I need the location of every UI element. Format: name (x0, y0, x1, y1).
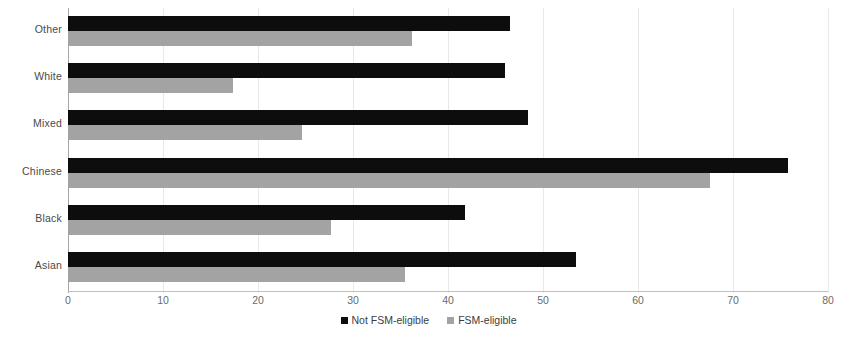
legend-swatch-fsm-eligible (447, 317, 454, 324)
x-axis-tick-60: 60 (632, 294, 644, 306)
legend-label-text: FSM-eligible (458, 314, 516, 326)
y-axis-label-black: Black (2, 212, 62, 224)
x-axis-line (68, 291, 828, 292)
gridline-80 (828, 8, 829, 293)
plot-area (68, 8, 828, 291)
x-axis-tick-20: 20 (252, 294, 264, 306)
bar-group-white (68, 59, 828, 103)
bar-other-not-fsm-eligible[interactable] (68, 16, 510, 31)
y-axis-label-mixed: Mixed (2, 117, 62, 129)
bar-group-mixed (68, 106, 828, 150)
x-axis-tick-10: 10 (157, 294, 169, 306)
bar-group-other (68, 12, 828, 56)
x-axis-tick-50: 50 (537, 294, 549, 306)
bar-group-black (68, 201, 828, 245)
y-axis-label-white: White (2, 70, 62, 82)
y-axis-label-chinese: Chinese (2, 165, 62, 177)
bar-chart: OtherWhiteMixedChineseBlackAsian 0102030… (0, 0, 857, 341)
legend-item-not-fsm-eligible[interactable]: Not FSM-eligible (341, 314, 430, 326)
x-axis-tick-labels: 01020304050607080 (68, 294, 828, 310)
bar-white-not-fsm-eligible[interactable] (68, 63, 505, 78)
chart-legend: Not FSM-eligibleFSM-eligible (0, 314, 857, 326)
y-axis-label-asian: Asian (2, 259, 62, 271)
bar-chinese-fsm-eligible[interactable] (68, 173, 710, 188)
bar-group-chinese (68, 154, 828, 198)
x-axis-tick-30: 30 (347, 294, 359, 306)
bar-asian-not-fsm-eligible[interactable] (68, 252, 576, 267)
bar-white-fsm-eligible[interactable] (68, 78, 233, 93)
x-axis-tick-80: 80 (822, 294, 834, 306)
y-axis-category-labels: OtherWhiteMixedChineseBlackAsian (0, 8, 62, 291)
legend-swatch-not-fsm-eligible (341, 317, 348, 324)
x-axis-tick-40: 40 (442, 294, 454, 306)
bar-mixed-fsm-eligible[interactable] (68, 125, 302, 140)
bar-black-fsm-eligible[interactable] (68, 220, 331, 235)
bar-chinese-not-fsm-eligible[interactable] (68, 158, 788, 173)
bar-other-fsm-eligible[interactable] (68, 31, 412, 46)
bar-asian-fsm-eligible[interactable] (68, 267, 405, 282)
legend-label-text: Not FSM-eligible (352, 314, 430, 326)
bar-mixed-not-fsm-eligible[interactable] (68, 110, 528, 125)
legend-item-fsm-eligible[interactable]: FSM-eligible (447, 314, 516, 326)
x-axis-tick-0: 0 (65, 294, 71, 306)
bar-group-asian (68, 248, 828, 292)
y-axis-label-other: Other (2, 23, 62, 35)
bar-black-not-fsm-eligible[interactable] (68, 205, 465, 220)
x-axis-tick-70: 70 (727, 294, 739, 306)
